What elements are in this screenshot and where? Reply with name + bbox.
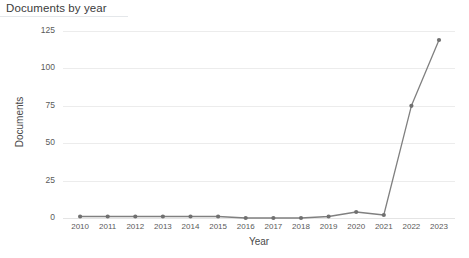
documents-line-series bbox=[0, 17, 469, 258]
data-point-marker[interactable] bbox=[437, 38, 441, 42]
y-axis-title: Documents bbox=[14, 62, 26, 182]
data-point-marker[interactable] bbox=[244, 216, 248, 220]
data-point-marker[interactable] bbox=[161, 214, 165, 218]
data-point-marker[interactable] bbox=[354, 210, 358, 214]
data-point-marker[interactable] bbox=[133, 214, 137, 218]
data-point-marker[interactable] bbox=[78, 214, 82, 218]
data-point-marker[interactable] bbox=[271, 216, 275, 220]
x-axis-title: Year bbox=[63, 236, 455, 248]
series-line bbox=[80, 40, 439, 218]
documents-by-year-chart-panel: Documents by year 0255075100125 20102011… bbox=[0, 0, 469, 258]
data-point-marker[interactable] bbox=[216, 214, 220, 218]
data-point-marker[interactable] bbox=[106, 214, 110, 218]
panel-header: Documents by year bbox=[0, 0, 469, 17]
data-point-marker[interactable] bbox=[409, 104, 413, 108]
page-title: Documents by year bbox=[6, 1, 107, 15]
data-point-marker[interactable] bbox=[299, 216, 303, 220]
data-point-marker[interactable] bbox=[327, 214, 331, 218]
chart-plot-area: 0255075100125 20102011201220132014201520… bbox=[0, 17, 469, 258]
data-point-marker[interactable] bbox=[382, 213, 386, 217]
data-point-marker[interactable] bbox=[188, 214, 192, 218]
